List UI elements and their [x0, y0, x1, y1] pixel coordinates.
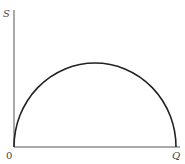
origin-label: 0 [6, 150, 12, 161]
x-end-label: Q [172, 150, 180, 161]
semicircle-curve [14, 63, 176, 147]
axes [14, 10, 180, 147]
y-axis-label: S [3, 8, 10, 19]
diagram-canvas: S 0 Q [0, 0, 185, 164]
